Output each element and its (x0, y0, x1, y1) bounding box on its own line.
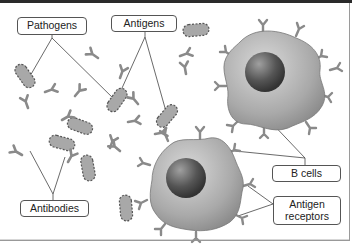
label-b-cells: B cells (272, 165, 341, 182)
pathogen (154, 102, 180, 130)
label-antibodies: Antibodies (20, 200, 89, 217)
pathogen (80, 154, 96, 182)
label-antigen-receptors: Antigen receptors (273, 196, 341, 225)
label-pathogens: Pathogens (17, 17, 87, 35)
pathogen (48, 134, 76, 152)
pathogen (13, 62, 38, 90)
antibodies (10, 48, 193, 164)
label-antigens: Antigens (111, 15, 177, 32)
pathogen (105, 86, 130, 114)
pathogen (183, 23, 210, 37)
pathogen (66, 116, 95, 136)
b-cell-lower (135, 127, 255, 242)
label-antigen-receptors-line2: receptors (285, 211, 329, 223)
b-cell-upper (215, 20, 342, 138)
label-antigen-receptors-line1: Antigen (289, 199, 325, 211)
pathogen (119, 195, 133, 222)
